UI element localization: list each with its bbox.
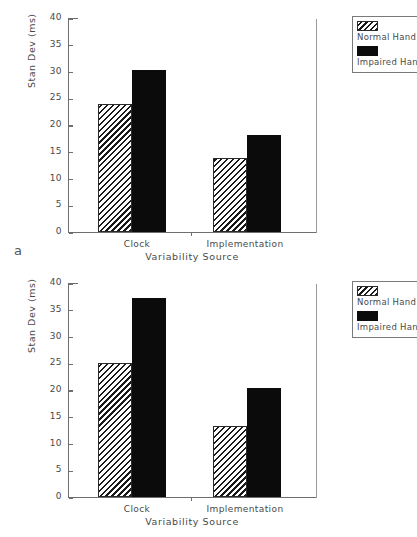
chart-panel-a: Stan Dev (ms) 4035302520151050ClockImple… [0,0,417,265]
y-tick-mark-a [69,152,73,153]
x-axis-title-b: Variability Source [68,516,316,527]
x-axis-title-a: Variability Source [68,251,316,262]
chart-panel-b: Stan Dev (ms) 4035302520151050ClockImple… [0,265,417,530]
bar-clock-normal-hand-a [98,104,132,232]
plot-area-a: Stan Dev (ms) 4035302520151050ClockImple… [0,0,417,265]
y-tick-label-b: 15 [50,411,62,421]
y-tick-label-a: 10 [50,173,62,183]
x-tick-label-clock-b: Clock [124,504,150,514]
y-tick-label-b: 0 [56,491,62,501]
bar-implementation-impaired-hand-b [247,388,281,497]
x-tick-label-implementation-b: Implementation [206,504,283,514]
y-tick-label-b: 25 [50,357,62,367]
x-tick-label-implementation-a: Implementation [206,239,283,249]
legend-a: Normal Hand Impaired Hand [352,16,417,73]
x-tick-mark-mid-b [191,497,192,501]
legend-label-normal-hand-b: Normal Hand [357,297,417,307]
bar-implementation-normal-hand-a [213,158,247,232]
y-tick-mark-a [69,45,73,46]
legend-b: Normal Hand Impaired Hand [352,281,417,338]
y-tick-label-a: 15 [50,146,62,156]
y-tick-mark-a [69,179,73,180]
y-tick-mark-a [69,99,73,100]
bar-clock-impaired-hand-b [132,298,166,497]
y-tick-label-a: 5 [56,199,62,209]
y-tick-label-b: 35 [50,304,62,314]
legend-swatch-impaired-hand-a [357,46,378,56]
y-tick-label-b: 5 [56,464,62,474]
y-tick-label-a: 20 [50,119,62,129]
y-tick-mark-b [69,283,73,284]
legend-swatch-normal-hand-a [357,21,378,31]
y-tick-mark-b [69,497,73,498]
axis-right-edge-a [316,19,317,233]
y-tick-mark-a [69,232,73,233]
y-axis-title-b: Stan Dev (ms) [26,278,37,353]
y-tick-label-a: 30 [50,66,62,76]
panel-letter-a: a [14,243,22,258]
y-tick-mark-b [69,364,73,365]
y-tick-label-a: 0 [56,226,62,236]
bar-clock-normal-hand-b [98,363,132,497]
y-tick-mark-a [69,72,73,73]
y-tick-label-b: 10 [50,438,62,448]
legend-swatch-normal-hand-b [357,286,378,296]
y-tick-label-b: 20 [50,384,62,394]
bar-implementation-normal-hand-b [213,426,247,497]
plot-area-b: Stan Dev (ms) 4035302520151050ClockImple… [0,265,417,530]
legend-label-impaired-hand-b: Impaired Hand [357,322,417,332]
y-tick-label-b: 30 [50,331,62,341]
bar-implementation-impaired-hand-a [247,135,281,232]
y-tick-mark-b [69,417,73,418]
bar-clock-impaired-hand-a [132,70,166,232]
legend-label-normal-hand-a: Normal Hand [357,32,417,42]
y-tick-label-a: 40 [50,12,62,22]
y-tick-mark-a [69,18,73,19]
y-tick-mark-b [69,444,73,445]
y-tick-mark-b [69,310,73,311]
axes-b: 4035302520151050ClockImplementation [68,284,316,498]
y-tick-label-b: 40 [50,277,62,287]
y-tick-label-a: 25 [50,92,62,102]
x-tick-label-clock-a: Clock [124,239,150,249]
y-tick-mark-b [69,471,73,472]
y-tick-mark-b [69,390,73,391]
y-tick-mark-a [69,125,73,126]
y-axis-title-a: Stan Dev (ms) [26,13,37,88]
x-tick-mark-mid-a [191,232,192,236]
legend-label-impaired-hand-a: Impaired Hand [357,57,417,67]
legend-swatch-impaired-hand-b [357,311,378,321]
y-tick-mark-b [69,337,73,338]
y-tick-label-a: 35 [50,39,62,49]
axes-a: 4035302520151050ClockImplementation [68,19,316,233]
y-tick-mark-a [69,206,73,207]
axis-right-edge-b [316,284,317,498]
